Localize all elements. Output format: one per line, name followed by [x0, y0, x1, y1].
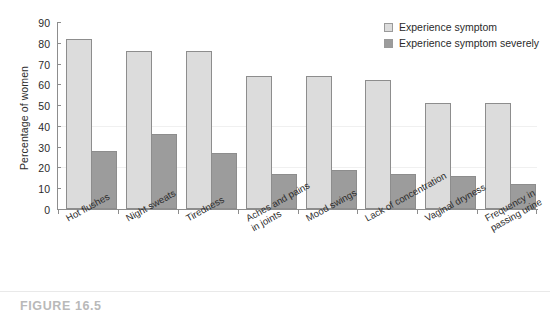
bar [365, 80, 391, 209]
bar [126, 51, 152, 209]
bar-group [58, 22, 118, 209]
y-axis-tick: 60 [38, 75, 57, 93]
y-axis-tick-label: 70 [38, 59, 57, 71]
y-axis-tick-label: 0 [44, 204, 57, 216]
figure-container: Percentage of women 0102030405060708090 … [0, 0, 550, 319]
y-axis-tick: 20 [38, 158, 57, 176]
y-axis-tick: 0 [44, 200, 57, 218]
x-axis-labels: Hot flushesNight sweatsTirednessAches an… [58, 212, 537, 292]
x-axis-label-cell: Frequency inpassing urine [477, 212, 537, 292]
y-axis-title: Percentage of women [18, 38, 30, 198]
legend-label: Experience symptom severely [399, 37, 539, 49]
x-axis-label-cell: Tiredness [178, 212, 238, 292]
bar [186, 51, 212, 209]
y-axis-tick-label: 30 [38, 142, 57, 154]
y-axis-tick-label: 20 [38, 162, 57, 174]
bar [66, 39, 92, 209]
bar [485, 103, 511, 209]
y-axis-tick-label: 80 [38, 38, 57, 50]
y-axis-tick: 70 [38, 55, 57, 73]
y-axis-tick: 90 [38, 13, 57, 31]
y-axis-tick: 10 [38, 179, 57, 197]
chart-legend: Experience symptomExperience symptom sev… [384, 21, 539, 53]
x-axis-label-cell: Lack of concentration [357, 212, 417, 292]
legend-swatch [384, 39, 393, 48]
y-axis-tick: 40 [38, 117, 57, 135]
x-axis-label-cell: Aches and painsin joints [238, 212, 298, 292]
caption-divider [0, 291, 550, 292]
y-axis-tick: 50 [38, 96, 57, 114]
x-axis-label-cell: Hot flushes [58, 212, 118, 292]
bar [246, 76, 272, 209]
bar-group [238, 22, 298, 209]
y-axis-tick-label: 50 [38, 100, 57, 112]
y-axis-tick-label: 40 [38, 121, 57, 133]
y-axis-tick-label: 60 [38, 79, 57, 91]
y-axis-tick-label: 90 [38, 17, 57, 29]
x-axis-label-cell: Mood swings [298, 212, 358, 292]
legend-item: Experience symptom [384, 21, 539, 33]
y-axis-tick: 80 [38, 34, 57, 52]
legend-swatch [384, 23, 393, 32]
legend-label: Experience symptom [399, 21, 497, 33]
x-axis-label-cell: Vaginal dryness [417, 212, 477, 292]
bar-group [118, 22, 178, 209]
x-axis-label-cell: Night sweats [118, 212, 178, 292]
bar-group [178, 22, 238, 209]
y-axis-tick: 30 [38, 138, 57, 156]
bar [425, 103, 451, 209]
y-axis-tick-label: 10 [38, 183, 57, 195]
legend-item: Experience symptom severely [384, 37, 539, 49]
figure-caption: FIGURE 16.5 [20, 299, 102, 313]
